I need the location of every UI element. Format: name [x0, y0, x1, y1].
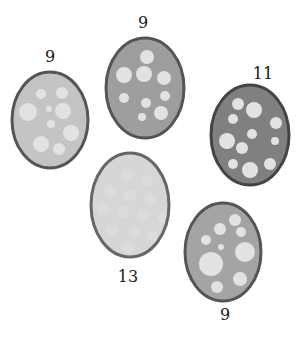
egg-top-middle: 9 [106, 13, 184, 138]
egg-spot [235, 242, 255, 262]
egg-spot [122, 242, 134, 254]
egg-count-label: 9 [220, 305, 230, 324]
egg-spot [246, 102, 262, 118]
egg-spot [264, 158, 276, 170]
egg-spot [129, 226, 141, 238]
egg-spot [117, 206, 129, 218]
egg-spot [136, 66, 152, 82]
egg-spot [47, 120, 55, 128]
egg-spot [97, 203, 109, 215]
egg-spot [228, 159, 238, 169]
egg-spot [218, 244, 224, 250]
egg-spot [121, 169, 133, 181]
egg-spot [19, 103, 37, 121]
egg-spot [124, 189, 136, 201]
egg-spot [154, 106, 168, 120]
egg-count-label: 9 [138, 13, 148, 32]
egg-spot [144, 193, 156, 205]
egg-spot [201, 235, 211, 245]
egg-spot [157, 71, 171, 85]
egg-spot [104, 185, 116, 197]
egg-spot [106, 224, 118, 236]
egg-spot [232, 98, 244, 110]
egg-spot [211, 281, 223, 293]
egg-spot [138, 113, 146, 121]
egg-spot [233, 272, 247, 286]
egg-left: 9 [12, 47, 88, 168]
egg-spot [119, 93, 129, 103]
egg-center: 13 [91, 153, 169, 286]
egg-spot [229, 214, 241, 226]
egg-count-label: 11 [253, 64, 273, 83]
egg-spot [271, 137, 279, 145]
egg-spot [236, 142, 248, 154]
egg-spot [53, 143, 65, 155]
egg-count-label: 9 [45, 47, 55, 66]
egg-right: 11 [211, 64, 289, 185]
eggs-diagram: 9911139 [0, 0, 306, 341]
egg-spot [228, 114, 238, 124]
egg-spot [141, 98, 151, 108]
egg-spot [36, 89, 46, 99]
egg-spot [214, 223, 226, 235]
egg-spot [247, 129, 257, 139]
egg-spot [199, 252, 223, 276]
egg-spot [33, 136, 49, 152]
egg-spot [46, 106, 52, 112]
egg-spot [148, 231, 158, 241]
egg-spot [219, 133, 235, 149]
egg-spot [56, 87, 68, 99]
egg-spot [55, 103, 71, 119]
egg-spot [242, 162, 258, 178]
egg-spot [140, 50, 154, 64]
egg-spot [160, 91, 170, 101]
egg-spot [63, 125, 79, 141]
egg-count-label: 13 [118, 267, 138, 286]
egg-spot [270, 117, 282, 129]
egg-spot [116, 67, 132, 83]
egg-spot [141, 175, 153, 187]
egg-spot [236, 227, 246, 237]
egg-bottom-right: 9 [185, 203, 261, 324]
egg-spot [137, 209, 149, 221]
